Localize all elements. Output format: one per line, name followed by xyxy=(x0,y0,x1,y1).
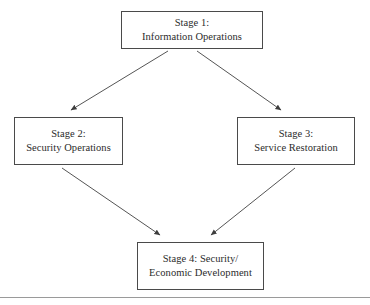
node-stage-4-line-2: Economic Development xyxy=(149,266,252,280)
node-stage-3-line-2: Service Restoration xyxy=(254,141,337,155)
node-stage-3-line-1: Stage 3: xyxy=(279,127,314,141)
node-stage-4-line-1: Stage 4: Security/ xyxy=(163,252,239,266)
node-stage-1-line-1: Stage 1: xyxy=(175,16,210,30)
node-stage-1: Stage 1: Information Operations xyxy=(121,11,263,49)
node-stage-3: Stage 3: Service Restoration xyxy=(237,117,355,165)
node-stage-2: Stage 2: Security Operations xyxy=(14,117,123,165)
arrow-stage3-to-stage4 xyxy=(211,168,295,235)
node-stage-1-line-2: Information Operations xyxy=(142,30,242,44)
arrow-stage1-to-stage2 xyxy=(71,51,168,110)
arrow-stage2-to-stage4 xyxy=(62,168,160,235)
diagram-canvas: Stage 1: Information Operations Stage 2:… xyxy=(0,0,370,305)
node-stage-4: Stage 4: Security/ Economic Development xyxy=(137,242,264,290)
arrow-stage1-to-stage3 xyxy=(197,51,281,110)
footer-divider-rule xyxy=(0,297,370,298)
node-stage-2-line-1: Stage 2: xyxy=(51,127,86,141)
node-stage-2-line-2: Security Operations xyxy=(26,141,111,155)
